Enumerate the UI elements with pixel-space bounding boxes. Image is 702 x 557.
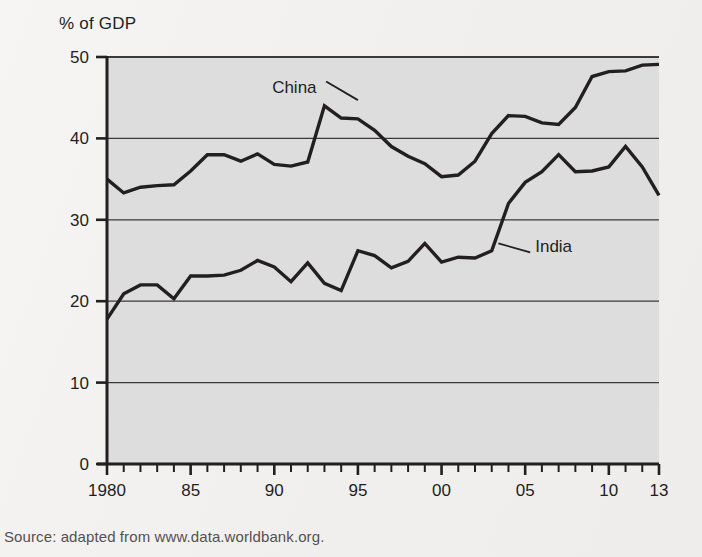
x-tick-labels-group: 198085909500051013 — [88, 481, 668, 500]
y-tick-label-50: 50 — [70, 48, 89, 67]
series-label-india: India — [535, 237, 572, 256]
y-tick-label-30: 30 — [70, 211, 89, 230]
x-tick-label-1995: 95 — [348, 481, 367, 500]
series-label-china: China — [272, 78, 317, 97]
x-tick-label-1990: 90 — [265, 481, 284, 500]
y-tick-label-20: 20 — [70, 292, 89, 311]
x-tick-label-2010: 10 — [599, 481, 618, 500]
y-tick-label-10: 10 — [70, 374, 89, 393]
source-note: Source: adapted from www.data.worldbank.… — [4, 528, 324, 545]
x-tick-label-2000: 00 — [432, 481, 451, 500]
y-tick-label-0: 0 — [80, 455, 89, 474]
x-tick-label-2013: 13 — [650, 481, 669, 500]
line-chart-plot: 01020304050 198085909500051013 ChinaIndi… — [0, 0, 702, 557]
x-tick-label-1980: 1980 — [88, 481, 126, 500]
y-tick-label-40: 40 — [70, 129, 89, 148]
y-tick-labels-group: 01020304050 — [70, 48, 89, 474]
chart-figure: Thinking like an ec A2 Economics % of GD… — [0, 0, 702, 557]
x-tick-label-2005: 05 — [516, 481, 535, 500]
x-tick-label-1985: 85 — [181, 481, 200, 500]
